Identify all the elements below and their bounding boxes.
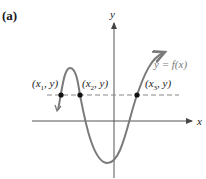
point-label-x3: (x3, y) bbox=[145, 78, 171, 92]
y-axis-label: y bbox=[110, 9, 115, 20]
point-x2 bbox=[77, 92, 82, 97]
point-x3 bbox=[134, 92, 139, 97]
rest: , y) bbox=[94, 77, 108, 89]
point-label-x1: (x1, y) bbox=[32, 78, 58, 92]
point-label-x2: (x2, y) bbox=[82, 78, 108, 92]
point-x1 bbox=[58, 92, 63, 97]
figure-root: (a) y x y = f(x) (x1, y) (x2, y) (x3, y) bbox=[0, 0, 206, 179]
rest: , y) bbox=[157, 77, 171, 89]
function-label: y = f(x) bbox=[154, 59, 187, 70]
function-curve bbox=[58, 53, 163, 163]
x-axis-label: x bbox=[197, 116, 202, 127]
rest: , y) bbox=[44, 77, 58, 89]
